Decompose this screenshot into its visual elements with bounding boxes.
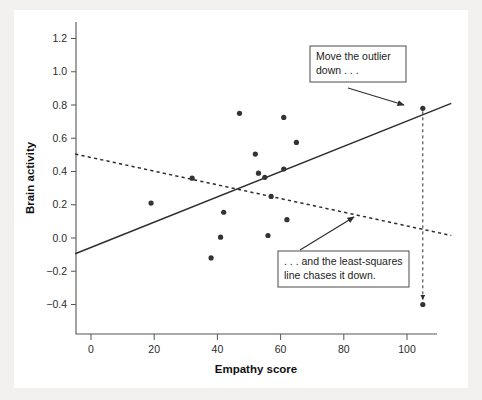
x-tick-label: 40 — [212, 343, 224, 355]
x-tick-label: 100 — [398, 343, 416, 355]
y-tick-label: −0.2 — [46, 265, 67, 277]
data-point — [208, 255, 213, 260]
x-axis-title: Empathy score — [215, 363, 297, 375]
data-point — [262, 175, 267, 180]
y-tick-label: 1.0 — [52, 65, 67, 77]
outlier-moved-point — [420, 302, 425, 307]
y-axis-title: Brain activity — [24, 141, 36, 214]
data-point — [253, 151, 258, 156]
x-tick-label: 80 — [338, 343, 350, 355]
data-point — [294, 140, 299, 145]
data-point — [256, 171, 261, 176]
y-tick-label: 1.2 — [52, 32, 67, 44]
data-point — [218, 235, 223, 240]
data-point — [237, 111, 242, 116]
dashed-regression-line — [75, 154, 451, 235]
x-tick-label: 0 — [88, 343, 94, 355]
data-point — [281, 115, 286, 120]
annotation-1-line-2: down . . . — [316, 64, 359, 76]
data-point — [281, 166, 286, 171]
x-tick-label: 20 — [148, 343, 160, 355]
x-tick-label: 60 — [275, 343, 287, 355]
y-tick-label: 0.6 — [52, 132, 67, 144]
annotation-arrow-1 — [348, 88, 404, 105]
data-point — [265, 233, 270, 238]
y-tick-label: 0.8 — [52, 99, 67, 111]
annotation-2-line-2: line chases it down. — [284, 269, 376, 281]
annotation-move-outlier: Move the outlier down . . . — [310, 46, 406, 105]
data-point — [148, 200, 153, 205]
annotation-line-chases: . . . and the least-squares line chases … — [278, 217, 409, 287]
y-tick-label: 0.2 — [52, 198, 67, 210]
annotation-1-line-1: Move the outlier — [316, 50, 391, 62]
data-point — [420, 106, 425, 111]
y-tick-label: 0.0 — [52, 232, 67, 244]
data-point — [269, 194, 274, 199]
data-point — [190, 176, 195, 181]
x-axis-tick-labels: 020406080100 — [88, 334, 416, 355]
y-axis-tick-labels: −0.4−0.20.00.20.40.60.81.01.2 — [46, 32, 76, 310]
data-point — [284, 217, 289, 222]
data-point — [221, 210, 226, 215]
y-tick-label: 0.4 — [52, 165, 67, 177]
annotation-2-line-1: . . . and the least-squares — [284, 255, 402, 267]
scatter-chart: −0.4−0.20.00.20.40.60.81.01.2 0204060801… — [0, 0, 482, 400]
y-tick-label: −0.4 — [46, 298, 67, 310]
figure-container: −0.4−0.20.00.20.40.60.81.01.2 0204060801… — [0, 0, 482, 400]
annotation-arrow-2 — [300, 217, 354, 250]
